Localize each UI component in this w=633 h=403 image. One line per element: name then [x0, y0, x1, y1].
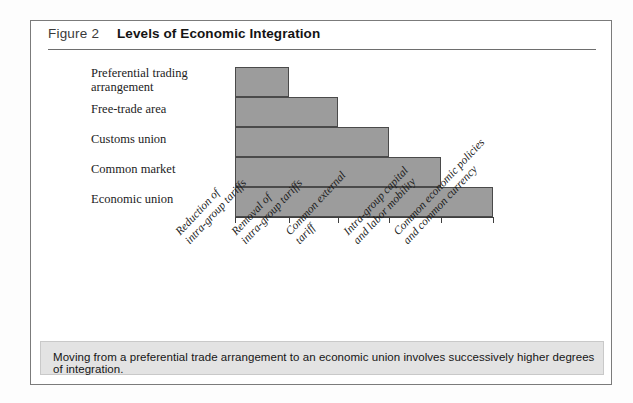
figure-header: Figure 2 Levels of Economic Integration [31, 21, 611, 55]
figure-title: Levels of Economic Integration [117, 26, 320, 41]
header-divider [48, 49, 596, 50]
row-label-free-trade-area: Free-trade area [91, 103, 231, 116]
bar-free-trade-area [235, 97, 338, 127]
caption-band: Moving from a preferential trade arrange… [40, 341, 604, 375]
row-label-common-market: Common market [91, 163, 231, 176]
bar-preferential-trading-arrangement [235, 67, 289, 97]
row-label-customs-union: Customs union [91, 133, 231, 146]
figure-caption: Moving from a preferential trade arrange… [53, 351, 603, 375]
bar-customs-union [235, 127, 389, 157]
figure-number-label: Figure 2 [48, 26, 99, 41]
chart-plot-area: Preferential trading arrangement Free-tr… [31, 55, 611, 345]
row-label-line2: arrangement [91, 80, 153, 94]
row-label-line1: Preferential trading [91, 66, 188, 80]
x-axis-label-group: Reduction of intra-group tariffs Removal… [31, 223, 611, 341]
row-label-preferential-trading-arrangement: Preferential trading arrangement [91, 67, 231, 94]
figure-frame: Figure 2 Levels of Economic Integration … [30, 20, 612, 385]
